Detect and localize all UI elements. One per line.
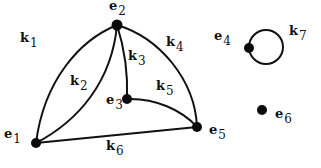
label-k4: k4 bbox=[166, 34, 184, 54]
edge-k4 bbox=[117, 25, 197, 127]
vertex-e2 bbox=[112, 20, 123, 31]
label-e6: e6 bbox=[275, 106, 292, 126]
label-k3: k3 bbox=[128, 48, 146, 68]
label-k5: k5 bbox=[156, 78, 174, 98]
label-e1: e1 bbox=[4, 126, 21, 146]
edge-k7-loop bbox=[249, 30, 283, 64]
label-e3: e3 bbox=[106, 92, 123, 112]
label-e5: e5 bbox=[209, 122, 226, 142]
edge-k6 bbox=[36, 127, 197, 143]
label-k6: k6 bbox=[106, 138, 124, 158]
vertex-e1 bbox=[31, 138, 41, 148]
label-e2: e2 bbox=[109, 0, 126, 18]
vertex-e6 bbox=[257, 105, 267, 115]
edge-k3 bbox=[117, 25, 127, 99]
label-e4: e4 bbox=[214, 28, 231, 48]
vertex-e5 bbox=[192, 122, 202, 132]
label-k2: k2 bbox=[70, 73, 88, 93]
edge-k5 bbox=[127, 99, 197, 127]
vertex-e3 bbox=[122, 94, 132, 104]
vertex-e4 bbox=[244, 43, 254, 53]
graph-diagram: e1 e2 e3 e4 e5 e6 k1 k2 k3 k4 k5 k6 k7 bbox=[0, 0, 321, 168]
label-k1: k1 bbox=[20, 30, 38, 50]
label-k7: k7 bbox=[289, 23, 307, 43]
